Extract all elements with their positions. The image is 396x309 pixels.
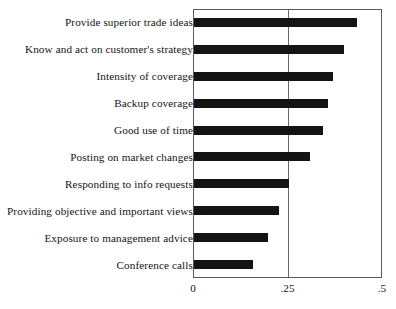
value-bar [194, 152, 310, 161]
category-label: Backup coverage [114, 97, 193, 109]
chart-row: Providing objective and important views [0, 206, 396, 215]
chart-row: Good use of time [0, 126, 396, 135]
value-bar [194, 126, 323, 135]
chart-row: Intensity of coverage [0, 72, 396, 81]
chart-row: Backup coverage [0, 99, 396, 108]
value-bar [194, 179, 289, 188]
x-tick-label: .5 [378, 281, 386, 295]
value-bar [194, 260, 253, 269]
horizontal-bar-chart: Provide superior trade ideasKnow and act… [0, 0, 396, 309]
chart-row: Posting on market changes [0, 152, 396, 161]
chart-row: Exposure to management advice [0, 233, 396, 242]
category-label: Providing objective and important views [7, 205, 193, 217]
x-axis-tick-labels: 0.25.5 [0, 281, 396, 305]
value-bar [194, 18, 357, 27]
category-label: Responding to info requests [65, 178, 193, 190]
value-bar [194, 233, 268, 242]
chart-row: Responding to info requests [0, 179, 396, 188]
category-label: Good use of time [114, 124, 193, 136]
x-tick-label: 0 [190, 281, 196, 295]
value-bar [194, 72, 333, 81]
value-bar [194, 99, 328, 108]
category-label: Know and act on customer's strategy [25, 43, 193, 55]
chart-row: Know and act on customer's strategy [0, 45, 396, 54]
category-label: Posting on market changes [70, 151, 193, 163]
category-label: Conference calls [117, 259, 193, 271]
chart-row: Provide superior trade ideas [0, 18, 396, 27]
category-label: Provide superior trade ideas [65, 16, 193, 28]
value-bar [194, 45, 344, 54]
category-label: Exposure to management advice [44, 232, 193, 244]
chart-row: Conference calls [0, 260, 396, 269]
category-label: Intensity of coverage [96, 70, 193, 82]
chart-rows: Provide superior trade ideasKnow and act… [0, 0, 396, 309]
value-bar [194, 206, 279, 215]
x-tick-label: .25 [281, 281, 295, 295]
